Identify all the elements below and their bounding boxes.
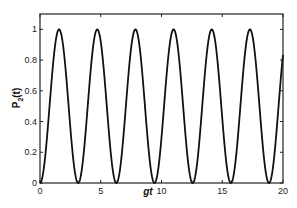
y-tick-label: 0.8 bbox=[24, 55, 37, 65]
y-tick-label: 1 bbox=[32, 24, 37, 34]
x-tick-label: 5 bbox=[98, 186, 103, 196]
y-tick-label: 0.2 bbox=[24, 147, 37, 157]
y-tick-label: 0.4 bbox=[24, 117, 37, 127]
y-axis-label: P2(t) bbox=[11, 88, 24, 109]
y-tick-label: 0 bbox=[32, 178, 37, 188]
x-axis-label: gt bbox=[142, 186, 153, 197]
x-tick-label: 0 bbox=[37, 186, 42, 196]
x-tick-label: 15 bbox=[217, 186, 227, 196]
line-chart: 00.20.40.60.81 05101520 gt P2(t) bbox=[0, 0, 297, 208]
x-tick-label: 10 bbox=[156, 186, 166, 196]
y-axis-label-tail: (t) bbox=[11, 88, 22, 98]
y-tick-label: 0.6 bbox=[24, 86, 37, 96]
x-tick-label: 20 bbox=[278, 186, 288, 196]
